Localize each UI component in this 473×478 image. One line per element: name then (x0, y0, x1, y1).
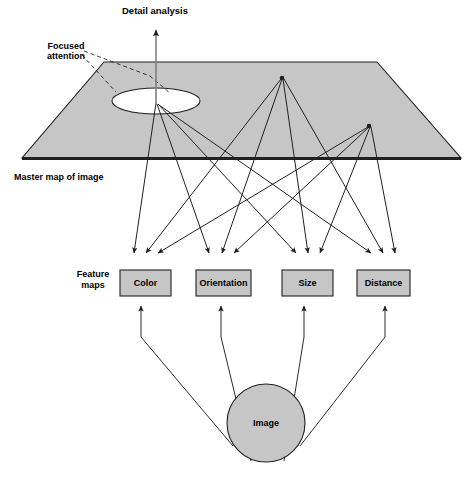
focused-attention-label-line2: attention (47, 51, 85, 61)
detail-analysis-label: Detail analysis (122, 6, 188, 17)
master-map-plane (22, 62, 461, 159)
feature-map-label-size: Size (282, 278, 333, 288)
focused-attention-label-line1: Focused (47, 41, 84, 51)
image-to-color-arrow (141, 306, 233, 446)
feature-maps-label-line1: Feature (77, 269, 110, 279)
diagram-canvas (0, 0, 473, 478)
feature-maps-label: Feature maps (70, 269, 116, 292)
focused-attention-label: Focused attention (34, 41, 98, 62)
feature-map-label-distance: Distance (357, 278, 410, 288)
image-node-label: Image (227, 418, 305, 428)
feature-maps-label-line2: maps (81, 280, 105, 290)
master-map-label: Master map of image (14, 172, 104, 182)
image-to-distance-arrow (300, 306, 385, 446)
feature-map-label-color: Color (120, 278, 171, 288)
feature-map-label-orientation: Orientation (196, 278, 251, 288)
